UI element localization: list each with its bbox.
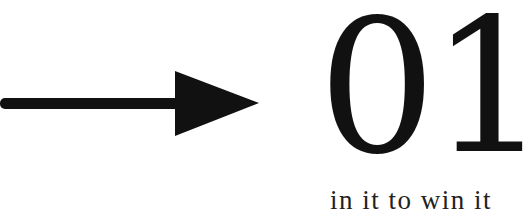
tagline: in it to win it bbox=[330, 185, 492, 215]
section-number: 01 bbox=[318, 0, 527, 180]
right-arrow-icon bbox=[0, 0, 270, 217]
